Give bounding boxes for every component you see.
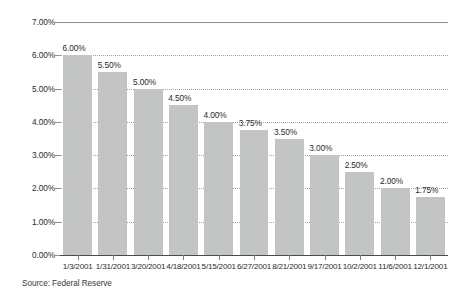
x-axis-label: 12/1/2001 — [413, 262, 447, 271]
bar[interactable] — [310, 155, 339, 255]
bar[interactable] — [63, 55, 92, 255]
bar-slot: 6.00% — [60, 22, 95, 255]
y-axis-label: 4.00% — [32, 117, 55, 127]
bar[interactable] — [134, 89, 163, 255]
x-axis-tick — [183, 255, 184, 260]
y-axis-label: 0.00% — [32, 250, 55, 260]
bar-value-label: 2.50% — [345, 160, 368, 170]
bar[interactable] — [381, 188, 410, 255]
bar-value-label: 5.00% — [133, 77, 156, 87]
x-axis-label: 4/18/2001 — [166, 262, 200, 271]
x-axis-label: 6/27/2001 — [237, 262, 271, 271]
bar-slot: 3.00% — [307, 22, 342, 255]
y-axis-label: 6.00% — [32, 50, 55, 60]
bar-value-label: 3.75% — [239, 118, 262, 128]
bars-group: 6.00%5.50%5.00%4.50%4.00%3.75%3.50%3.00%… — [60, 22, 448, 255]
x-axis-label: 9/17/2001 — [307, 262, 341, 271]
bar[interactable] — [98, 72, 127, 255]
bar-slot: 4.00% — [201, 22, 236, 255]
x-axis-tick — [78, 255, 79, 260]
bar-value-label: 5.50% — [98, 60, 121, 70]
y-axis-label: 2.00% — [32, 183, 55, 193]
x-axis-label: 8/21/2001 — [272, 262, 306, 271]
bar[interactable] — [345, 172, 374, 255]
bar-slot: 1.75% — [413, 22, 448, 255]
x-axis-tick — [219, 255, 220, 260]
x-axis-tick — [395, 255, 396, 260]
bar-value-label: 4.50% — [168, 93, 191, 103]
bar-slot: 3.75% — [236, 22, 271, 255]
x-axis-label: 3/20/2001 — [131, 262, 165, 271]
x-axis-tick — [430, 255, 431, 260]
x-axis-label: 5/15/2001 — [202, 262, 236, 271]
x-axis-label: 10/2/2001 — [343, 262, 377, 271]
bar-value-label: 3.00% — [309, 143, 332, 153]
x-axis: 1/3/20011/31/20013/20/20014/18/20015/15/… — [60, 255, 448, 277]
x-axis-tick — [289, 255, 290, 260]
bar-slot: 2.50% — [342, 22, 377, 255]
bar[interactable] — [416, 197, 445, 255]
bar-slot: 4.50% — [166, 22, 201, 255]
bar-value-label: 1.75% — [415, 185, 438, 195]
x-axis-tick — [254, 255, 255, 260]
source-note: Source: Federal Reserve — [22, 279, 112, 288]
bar-value-label: 4.00% — [204, 110, 227, 120]
y-axis-label: 7.00% — [32, 17, 55, 27]
x-axis-tick — [325, 255, 326, 260]
bar[interactable] — [169, 105, 198, 255]
bar[interactable] — [240, 130, 269, 255]
x-axis-label: 1/3/2001 — [63, 262, 93, 271]
y-axis-label: 5.00% — [32, 84, 55, 94]
bar[interactable] — [204, 122, 233, 255]
x-axis-label: 1/31/2001 — [96, 262, 130, 271]
x-axis-label: 11/6/2001 — [378, 262, 412, 271]
bar-slot: 5.00% — [131, 22, 166, 255]
bar-value-label: 3.50% — [274, 127, 297, 137]
bar[interactable] — [275, 139, 304, 256]
x-axis-tick — [148, 255, 149, 260]
y-axis-label: 3.00% — [32, 150, 55, 160]
bar-value-label: 2.00% — [380, 176, 403, 186]
bar-value-label: 6.00% — [62, 43, 85, 53]
chart-container: 0.00%1.00%2.00%3.00%4.00%5.00%6.00%7.00%… — [0, 0, 464, 300]
plot-area: 0.00%1.00%2.00%3.00%4.00%5.00%6.00%7.00%… — [60, 22, 448, 255]
x-axis-tick — [360, 255, 361, 260]
x-axis-tick — [113, 255, 114, 260]
bar-slot: 5.50% — [95, 22, 130, 255]
bar-slot: 3.50% — [272, 22, 307, 255]
bar-slot: 2.00% — [377, 22, 412, 255]
y-axis-label: 1.00% — [32, 217, 55, 227]
